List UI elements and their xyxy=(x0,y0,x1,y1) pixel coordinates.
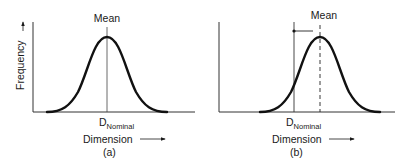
panel-a: Mean Frequency DNominal Dimension (a) xyxy=(14,12,195,158)
caption-b: (b) xyxy=(290,146,303,158)
caption-a: (a) xyxy=(103,146,116,158)
diagram-root: Mean Frequency DNominal Dimension (a) Me… xyxy=(0,0,410,164)
normal-distribution-diagram: Mean Frequency DNominal Dimension (a) Me… xyxy=(0,0,410,164)
mean-label: Mean xyxy=(311,9,337,21)
nominal-label: DNominal xyxy=(99,116,134,131)
x-axis-label: Dimension xyxy=(272,133,322,145)
x-axis-label: Dimension xyxy=(83,133,133,145)
panel-b: Mean DNominal Dimension (b) xyxy=(219,9,395,158)
y-axis-label: Frequency xyxy=(14,40,26,90)
mean-label: Mean xyxy=(94,12,120,24)
nominal-label: DNominal xyxy=(286,116,321,131)
